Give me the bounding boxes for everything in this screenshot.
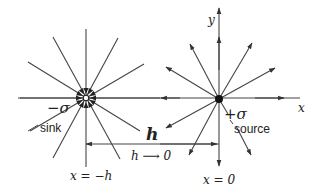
source-position-label: x = 0: [203, 173, 235, 187]
sink-strength-label: −σ: [47, 99, 71, 117]
sink-label: sink: [40, 121, 62, 135]
sink-leader: [28, 125, 38, 131]
x-axis-label: x: [298, 101, 305, 115]
y-axis-label: y: [207, 13, 215, 27]
separation-label: h: [146, 124, 158, 144]
sink-position-label: x = −h: [70, 169, 112, 183]
limit-label: h ⟶ 0: [131, 149, 172, 163]
source-sink-diagram: x y −σ sink +σ source h h ⟶ 0 x = −h x =…: [0, 0, 329, 193]
source-point: [215, 95, 223, 103]
sink-point: [83, 95, 89, 101]
source-strength-label: +σ: [224, 105, 248, 123]
source-label: source: [234, 122, 270, 136]
